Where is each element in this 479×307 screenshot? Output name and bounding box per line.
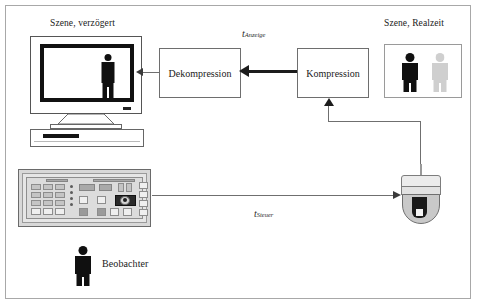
- console-key[interactable]: [31, 200, 41, 206]
- monitor-base-divider: [34, 141, 140, 142]
- timing-label-control: tSteuer: [254, 203, 273, 221]
- camera-lens-glint: [416, 209, 423, 216]
- console-key[interactable]: [139, 200, 148, 207]
- console-indicator-dot: [70, 185, 73, 188]
- line-camera-riser: [420, 121, 421, 165]
- label-scene-realtime: Szene, Realzeit: [384, 18, 444, 28]
- timing-label-control-sub: Steuer: [257, 211, 274, 218]
- console-indicator-dot: [70, 197, 73, 200]
- crt-monitor-icon: [28, 36, 146, 146]
- console-key[interactable]: [55, 192, 65, 198]
- timing-label-display-sub: Anzeige: [245, 31, 266, 38]
- console-key[interactable]: [43, 184, 53, 190]
- ghost-leg-gap: [439, 83, 441, 92]
- arrowhead-to-monitor: [136, 68, 143, 76]
- monitor-bezel: [40, 44, 134, 102]
- monitor-screen: [44, 48, 130, 98]
- line-kompression-to-dekompression: [249, 70, 297, 73]
- person-pictogram-icon: [399, 53, 421, 91]
- person-leg-gap: [107, 87, 109, 98]
- console-key[interactable]: [31, 208, 41, 215]
- line-dekompression-to-monitor: [143, 72, 160, 73]
- person-ghost-pictogram-icon: [429, 53, 451, 91]
- person-head: [105, 54, 112, 61]
- monitor-case: [30, 36, 142, 114]
- console-key[interactable]: [139, 209, 148, 216]
- console-indicator-dot: [70, 203, 73, 206]
- console-key[interactable]: [55, 184, 65, 190]
- console-top-strip: [46, 179, 68, 182]
- console-key[interactable]: [31, 192, 41, 198]
- console-joystick-hub[interactable]: [123, 198, 127, 202]
- console-key[interactable]: [43, 200, 53, 206]
- console-display-window: [79, 184, 95, 191]
- observer-leg-gap: [82, 277, 84, 286]
- box-kompression-label: Kompression: [306, 68, 359, 79]
- line-camera-to-kompression-horizontal: [328, 121, 421, 122]
- diagram-canvas: Szene, verzögert Szene, Realzeit tAnzeig…: [0, 0, 479, 307]
- observer-head: [79, 246, 88, 255]
- observer-torso: [75, 256, 91, 274]
- ghost-torso: [432, 63, 448, 80]
- person-torso: [102, 62, 115, 83]
- dome-camera-icon: [399, 164, 443, 226]
- console-face-panel: [26, 177, 143, 219]
- arrowhead-into-kompression: [324, 98, 334, 106]
- monitor-base-slot: [43, 134, 79, 138]
- console-key[interactable]: [118, 183, 124, 192]
- console-key[interactable]: [55, 200, 65, 206]
- box-dekompression[interactable]: Dekompression: [159, 48, 241, 98]
- label-observer: Beobachter: [102, 258, 149, 269]
- monitor-neck: [56, 114, 116, 124]
- control-console-icon[interactable]: [18, 169, 151, 227]
- monitor-power-led: [123, 107, 131, 110]
- person-pictogram-icon: [98, 54, 118, 98]
- label-scene-delayed: Szene, verzögert: [50, 18, 115, 28]
- person-leg-gap: [409, 83, 411, 92]
- person-head: [406, 53, 415, 62]
- console-key[interactable]: [43, 208, 53, 215]
- console-key[interactable]: [123, 208, 132, 216]
- console-key[interactable]: [55, 208, 65, 215]
- arrowhead-to-dekompression: [239, 65, 249, 77]
- timing-label-display: tAnzeige: [242, 23, 265, 41]
- console-key[interactable]: [79, 196, 88, 204]
- console-key[interactable]: [97, 196, 106, 204]
- console-key[interactable]: [139, 191, 148, 198]
- console-display-window: [99, 184, 112, 191]
- monitor-base-unit: [30, 129, 144, 147]
- box-dekompression-label: Dekompression: [169, 68, 232, 79]
- console-key[interactable]: [79, 208, 88, 216]
- console-key[interactable]: [139, 182, 148, 189]
- box-kompression[interactable]: Kompression: [297, 48, 369, 98]
- scene-realtime-box: [384, 44, 462, 98]
- console-key[interactable]: [97, 208, 106, 216]
- console-key[interactable]: [110, 208, 119, 216]
- console-indicator-dot: [70, 191, 73, 194]
- line-console-to-camera: [152, 195, 395, 196]
- diagram-outer-frame: Szene, verzögert Szene, Realzeit tAnzeig…: [5, 5, 471, 299]
- ghost-head: [436, 53, 445, 62]
- console-key[interactable]: [31, 184, 41, 190]
- console-key[interactable]: [43, 192, 53, 198]
- person-torso: [402, 63, 418, 80]
- observer-person-icon: [72, 246, 94, 286]
- console-top-strip-2: [93, 179, 135, 182]
- line-into-kompression: [328, 106, 329, 122]
- console-key[interactable]: [126, 183, 132, 192]
